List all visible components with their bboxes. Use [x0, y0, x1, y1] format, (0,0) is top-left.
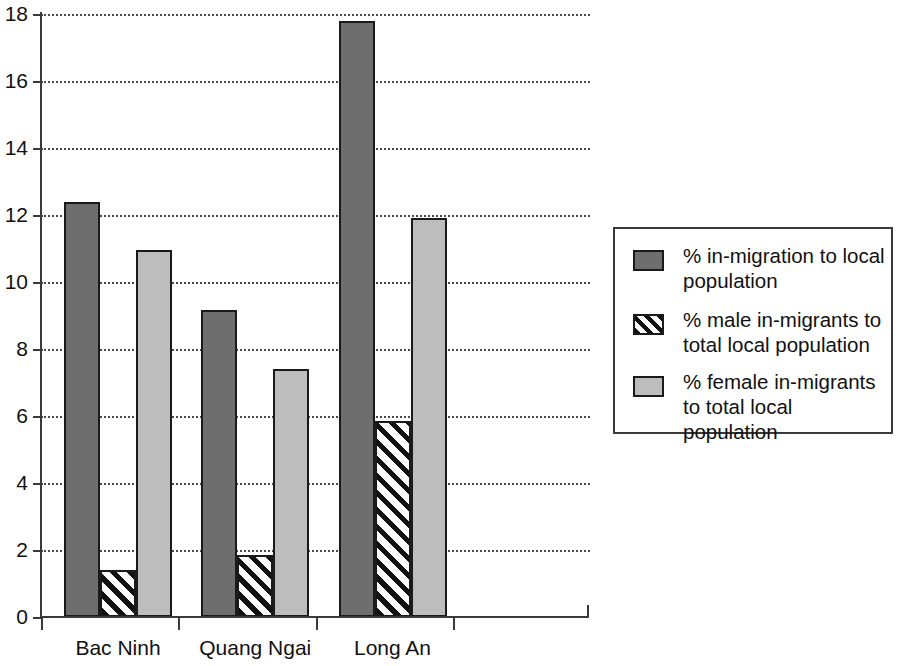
y-axis-tick — [33, 148, 42, 150]
y-axis-tick — [33, 483, 42, 485]
y-axis-tick-label: 18 — [0, 3, 28, 24]
y-axis-tick — [33, 282, 42, 284]
y-axis-tick-label: 16 — [0, 70, 28, 91]
y-axis-tick-label: 2 — [0, 539, 28, 560]
x-axis-tick-origin — [41, 618, 43, 630]
x-axis-tick — [316, 618, 318, 630]
x-axis-tick — [453, 618, 455, 630]
x-axis-tick — [178, 618, 180, 630]
gridline — [41, 148, 590, 150]
bar-quang-ngai-female_in_migrants — [273, 369, 309, 617]
bar-bac-ninh-female_in_migrants — [136, 250, 172, 617]
legend-label-line1: % male in-migrants to — [683, 308, 881, 331]
bar-bac-ninh-male_in_migrants — [100, 570, 136, 617]
gridline — [41, 349, 590, 351]
gridline — [41, 483, 590, 485]
x-axis-end-tick — [587, 605, 589, 618]
y-axis-tick — [33, 215, 42, 217]
y-axis-tick-label: 6 — [0, 405, 28, 426]
legend-item-male-in-migrants: % male in-migrants to total local popula… — [633, 307, 881, 357]
y-axis-tick-label: 8 — [0, 338, 28, 359]
bar-long-an-male_in_migrants — [375, 421, 411, 617]
gridline — [41, 215, 590, 217]
legend-label-female-in-migrants: % female in-migrants to total local popu… — [683, 369, 891, 444]
y-axis-tick-label: 0 — [0, 606, 28, 627]
bar-quang-ngai-in_migration — [201, 310, 237, 617]
y-axis-tick — [33, 416, 42, 418]
bar-quang-ngai-male_in_migrants — [237, 555, 273, 617]
legend-label-line2: total local population — [683, 333, 870, 356]
bar-long-an-female_in_migrants — [411, 218, 447, 617]
gridline — [41, 81, 590, 83]
y-axis-tick-label: 4 — [0, 472, 28, 493]
x-axis-category-label: Long An — [303, 636, 483, 660]
plot-area — [41, 14, 590, 617]
y-axis-tick — [33, 14, 42, 16]
legend-item-in-migration: % in-migration to local population — [633, 243, 885, 293]
legend-swatch-in-migration-icon — [633, 250, 664, 271]
legend-label-line2: to total local population — [683, 395, 792, 443]
y-axis-tick-label: 10 — [0, 271, 28, 292]
bar-bac-ninh-in_migration — [64, 202, 100, 617]
legend-label-male-in-migrants: % male in-migrants to total local popula… — [683, 307, 881, 357]
legend-item-female-in-migrants: % female in-migrants to total local popu… — [633, 369, 891, 444]
y-axis-line — [40, 12, 42, 619]
legend-label-in-migration: % in-migration to local population — [683, 243, 885, 293]
y-axis-tick-label: 14 — [0, 137, 28, 158]
legend-swatch-male-in-migrants-icon — [633, 314, 664, 335]
legend: % in-migration to local population % mal… — [613, 227, 893, 434]
y-axis-tick — [33, 550, 42, 552]
legend-label-line1: % in-migration to local — [683, 244, 885, 267]
y-axis-tick — [33, 81, 42, 83]
y-axis-tick-label: 12 — [0, 204, 28, 225]
legend-label-line1: % female in-migrants — [683, 370, 876, 393]
gridline — [41, 14, 590, 16]
legend-swatch-female-in-migrants-icon — [633, 376, 664, 397]
bar-chart: 024681012141618 Bac NinhQuang NgaiLong A… — [0, 0, 907, 666]
legend-label-line2: population — [683, 269, 778, 292]
bar-long-an-in_migration — [339, 21, 375, 617]
gridline — [41, 550, 590, 552]
gridline — [41, 416, 590, 418]
y-axis-tick — [33, 349, 42, 351]
gridline — [41, 282, 590, 284]
